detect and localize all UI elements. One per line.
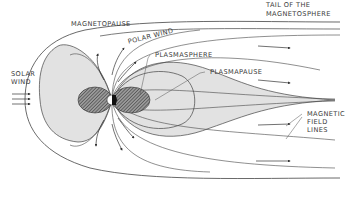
label-magnetic-line1: MAGNETIC	[307, 110, 345, 118]
label-plasmapause: PLASMAPAUSE	[210, 68, 262, 76]
label-tail-line2: MAGNETOSPHERE	[266, 10, 331, 18]
label-solar-line2: WIND	[11, 78, 31, 86]
label-tail-line1: TAIL OF THE	[266, 1, 310, 9]
plasmasphere-lobe-east	[112, 87, 150, 113]
earth-icon	[107, 95, 117, 105]
solar-wind-arrows	[12, 94, 30, 104]
label-magnetic-line3: LINES	[307, 126, 328, 134]
magnetosphere-diagram	[0, 0, 356, 202]
label-solar-line1: SOLAR	[11, 70, 35, 78]
label-plasmasphere: PLASMASPHERE	[155, 51, 213, 59]
label-magnetic-line2: FIELD	[307, 118, 328, 126]
label-magnetopause: MAGNETOPAUSE	[71, 20, 131, 28]
